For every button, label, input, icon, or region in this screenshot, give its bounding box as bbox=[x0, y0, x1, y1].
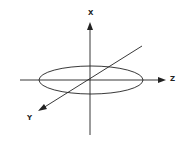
y-axis-label: Y bbox=[27, 115, 32, 122]
z-axis-label: Z bbox=[170, 76, 175, 83]
axes-drawing bbox=[0, 0, 185, 144]
coordinate-axes-diagram: X Z Y bbox=[0, 0, 185, 144]
x-axis-arrowhead bbox=[87, 22, 93, 30]
x-axis-label: X bbox=[88, 10, 93, 17]
y-axis-line bbox=[43, 46, 142, 108]
y-axis-arrowhead bbox=[38, 104, 47, 111]
z-axis-arrowhead bbox=[158, 77, 166, 83]
